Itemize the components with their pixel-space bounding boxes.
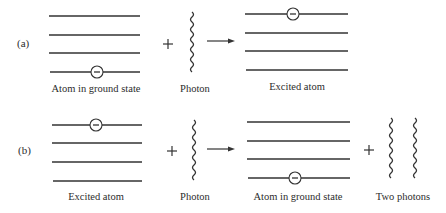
panel-tag-a: (a) xyxy=(17,37,29,49)
electron-icon xyxy=(90,119,102,131)
label-photon: Photon xyxy=(180,191,210,202)
electron-icon xyxy=(289,172,301,184)
photon-wave-icon xyxy=(193,120,196,180)
photon-wave-icon xyxy=(191,12,194,72)
arrow-right-icon xyxy=(207,147,235,152)
atom-a-ground-state xyxy=(49,16,140,78)
electron-icon xyxy=(91,66,103,78)
photon-wave-icon xyxy=(390,118,393,178)
electron-icon xyxy=(287,8,299,20)
arrow-right-icon xyxy=(207,39,235,44)
atom-b-ground-state xyxy=(247,122,350,184)
photon-wave-icon xyxy=(414,118,417,178)
plus-sign-icon xyxy=(364,145,374,155)
plus-sign-icon xyxy=(167,146,177,156)
label-excited-atom: Excited atom xyxy=(269,81,325,92)
plus-sign-icon xyxy=(163,39,173,49)
label-atom-ground-state: Atom in ground state xyxy=(254,191,343,202)
label-photon: Photon xyxy=(180,83,210,94)
label-two-photons: Two photons xyxy=(376,191,430,202)
panel-tag-b: (b) xyxy=(18,144,31,156)
energy-level-diagram xyxy=(0,0,446,213)
label-atom-ground-state: Atom in ground state xyxy=(52,83,141,94)
label-excited-atom: Excited atom xyxy=(68,191,124,202)
atom-a-excited xyxy=(245,8,348,70)
atom-b-excited xyxy=(52,119,142,181)
